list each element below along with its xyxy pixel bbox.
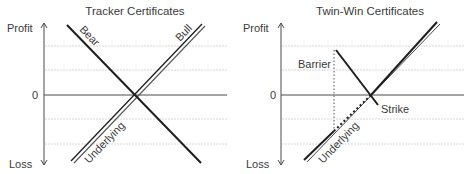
chart-title: Twin-Win Certificates <box>316 5 424 17</box>
certificate-payoff-diagrams: Tracker Certificates Profit 0 Loss Bear … <box>0 0 472 174</box>
loss-label: Loss <box>246 158 270 170</box>
barrier-label: Barrier <box>298 58 331 70</box>
twin-win-inverse-leg <box>336 50 378 105</box>
loss-label: Loss <box>9 158 33 170</box>
chart-title: Tracker Certificates <box>85 5 185 17</box>
zero-label: 0 <box>270 89 276 101</box>
profit-label: Profit <box>7 22 33 34</box>
zero-label: 0 <box>32 89 38 101</box>
strike-label: Strike <box>381 103 409 115</box>
profit-label: Profit <box>243 22 269 34</box>
twin-win-certificates-chart: Twin-Win Certificates Profit 0 Loss Ba <box>243 5 465 170</box>
twin-win-payoff-line <box>304 22 437 160</box>
bear-label: Bear <box>78 23 103 48</box>
tracker-certificates-chart: Tracker Certificates Profit 0 Loss Bear … <box>7 5 228 170</box>
